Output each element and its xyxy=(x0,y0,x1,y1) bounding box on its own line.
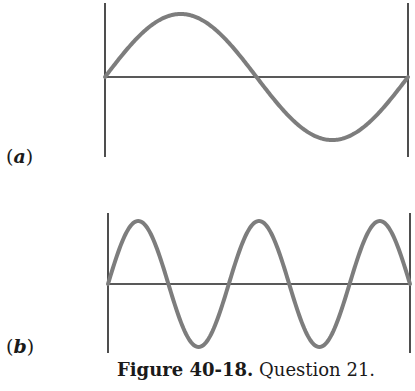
panel-b-label-letter: b xyxy=(13,335,26,357)
panel-b-graph xyxy=(108,213,410,353)
caption-text: Question 21. xyxy=(253,359,375,380)
panel-a-graph xyxy=(105,3,408,157)
panel-a-label-letter: a xyxy=(13,145,25,167)
panel-a-label-close: ) xyxy=(26,145,33,167)
panel-b-label-close: ) xyxy=(27,335,34,357)
figure-canvas xyxy=(0,0,415,391)
panel-b-label: (b) xyxy=(6,337,34,356)
figure-number: Figure 40-18. xyxy=(117,359,253,380)
figure-caption: Figure 40-18. Question 21. xyxy=(117,360,375,380)
panel-a-label: (a) xyxy=(6,147,33,166)
